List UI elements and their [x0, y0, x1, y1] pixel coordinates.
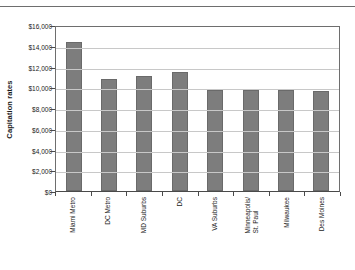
- bar-slot: [198, 27, 233, 191]
- gridline: [56, 89, 339, 90]
- x-label-slot: Milwaukee: [269, 197, 305, 267]
- x-axis-category-label: Des Moines: [318, 197, 326, 231]
- x-axis-category-label-line: Minneapolis/: [243, 197, 250, 234]
- x-axis-category-label-line: DC: [176, 197, 183, 206]
- x-axis-tick-marks: [55, 192, 340, 196]
- x-axis-category-label-line: Des Moines: [318, 197, 325, 231]
- x-axis-tick-mark: [162, 192, 163, 196]
- gridline: [56, 48, 339, 49]
- x-axis-category-label: Minneapolis/St. Paul: [243, 197, 258, 234]
- bar-slot: [233, 27, 268, 191]
- chart-figure: Capitation rates $0$2,000$4,000$6,000$8,…: [0, 0, 355, 270]
- x-label-slot: Miami Metro: [55, 197, 91, 267]
- y-axis-tick-label: $14,000: [29, 43, 53, 50]
- x-label-slot: Minneapolis/St. Paul: [233, 197, 269, 267]
- bar[interactable]: [136, 76, 152, 191]
- gridline: [56, 69, 339, 70]
- y-axis-tick-labels: $0$2,000$4,000$6,000$8,000$10,000$12,000…: [16, 26, 54, 192]
- x-axis-category-label: Milwaukee: [283, 197, 291, 228]
- y-axis-tick-mark: [50, 88, 55, 89]
- x-axis-category-label-line: MD Suburbs: [140, 197, 147, 233]
- y-axis-tick-label: $12,000: [29, 64, 53, 71]
- x-axis-category-label-line: DC Metro: [105, 197, 112, 225]
- bar-slot: [268, 27, 303, 191]
- y-axis-tick-label: $16,000: [29, 23, 53, 30]
- x-label-slot: MD Suburbs: [126, 197, 162, 267]
- x-axis-category-label: MD Suburbs: [140, 197, 148, 233]
- y-axis-tick-mark: [50, 47, 55, 48]
- x-axis-tick-mark: [233, 192, 234, 196]
- x-axis-category-labels: Miami MetroDC MetroMD SuburbsDCVA Suburb…: [55, 197, 340, 267]
- x-label-slot: DC Metro: [91, 197, 127, 267]
- bars-layer: [56, 27, 339, 191]
- top-divider-rule: [0, 6, 355, 7]
- x-axis-tick-mark: [198, 192, 199, 196]
- bar[interactable]: [243, 90, 259, 191]
- x-axis-tick-mark: [126, 192, 127, 196]
- x-axis-category-label-line: Milwaukee: [283, 197, 290, 228]
- bar-slot: [304, 27, 339, 191]
- x-axis-category-label: Miami Metro: [69, 197, 77, 233]
- x-axis-category-label-line: Miami Metro: [69, 197, 76, 233]
- bar[interactable]: [278, 90, 294, 191]
- x-label-slot: VA Suburbs: [198, 197, 234, 267]
- plot-area: [55, 26, 340, 192]
- gridline: [56, 152, 339, 153]
- gridline: [56, 131, 339, 132]
- bar-slot: [127, 27, 162, 191]
- x-axis-category-label: DC Metro: [105, 197, 113, 225]
- y-axis-tick-mark: [50, 151, 55, 152]
- x-axis-tick-mark: [304, 192, 305, 196]
- x-axis-tick-mark: [91, 192, 92, 196]
- bar-slot: [91, 27, 126, 191]
- y-axis-tick-mark: [50, 109, 55, 110]
- x-label-slot: Des Moines: [304, 197, 340, 267]
- x-axis-category-label: VA Suburbs: [212, 197, 220, 231]
- y-axis-tick-mark: [50, 192, 55, 193]
- x-axis-tick-mark: [340, 192, 341, 196]
- y-axis-tick-mark: [50, 68, 55, 69]
- bar[interactable]: [313, 91, 329, 191]
- y-axis-title-text: Capitation rates: [5, 80, 14, 138]
- y-axis-tick-mark: [50, 26, 55, 27]
- x-axis-tick-mark: [269, 192, 270, 196]
- x-axis-category-label: DC: [176, 197, 184, 206]
- y-axis-tick-mark: [50, 171, 55, 172]
- y-axis-tick-label: $10,000: [29, 85, 53, 92]
- x-label-slot: DC: [162, 197, 198, 267]
- y-axis-title: Capitation rates: [2, 26, 16, 192]
- y-axis-tick-mark: [50, 130, 55, 131]
- bar[interactable]: [101, 79, 117, 191]
- x-axis-category-label-line: St. Paul: [251, 197, 259, 234]
- gridline: [56, 172, 339, 173]
- gridline: [56, 110, 339, 111]
- bar-slot: [56, 27, 91, 191]
- x-axis-tick-mark: [55, 192, 56, 196]
- bar[interactable]: [207, 90, 223, 191]
- bar-slot: [162, 27, 197, 191]
- x-axis-category-label-line: VA Suburbs: [212, 197, 219, 231]
- bar[interactable]: [66, 42, 82, 191]
